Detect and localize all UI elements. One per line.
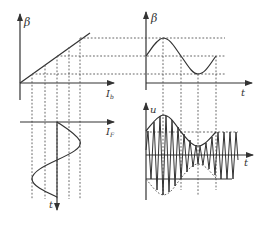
x-axis-label: Ib xyxy=(105,88,114,100)
u-axis-label: u xyxy=(150,104,156,115)
y-axis-label: β xyxy=(23,16,30,29)
panel-beta-vs-t: β t xyxy=(146,12,252,98)
y-axis-label: β xyxy=(150,12,157,25)
right-vertical-projections xyxy=(163,38,216,196)
left-vertical-projections xyxy=(32,38,80,199)
t-axis-label: t xyxy=(49,199,54,210)
if-sine-curve xyxy=(32,122,80,197)
t-axis-label: t xyxy=(244,157,249,168)
horizontal-projections xyxy=(32,38,225,74)
panel-if-vs-t: IF t xyxy=(20,122,115,210)
modulation-diagram: β Ib β t IF t u xyxy=(0,0,267,225)
upper-envelope xyxy=(146,115,216,146)
transfer-line xyxy=(20,33,90,83)
x-axis-label: t xyxy=(241,87,246,98)
panel-beta-vs-ib: β Ib xyxy=(20,14,114,100)
x-axis-label: IF xyxy=(105,126,115,138)
panel-u-vs-t: u t xyxy=(146,103,253,200)
